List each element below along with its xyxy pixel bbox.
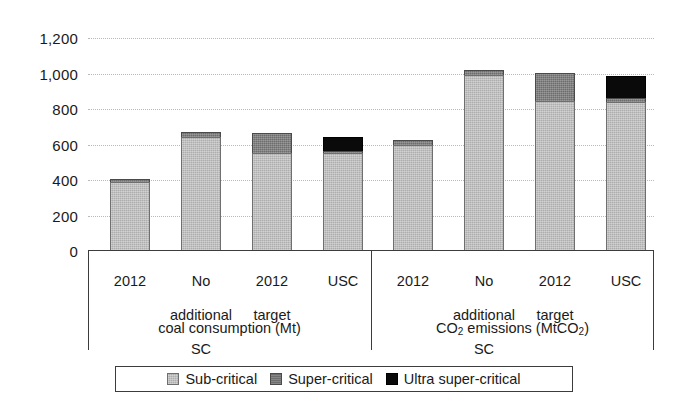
x-axis-category-labels: 2012 No additional SC 2012 target USC 20…	[88, 252, 654, 314]
group-label-co2-emissions: CO2 emissions (MtCO2)	[371, 320, 654, 337]
segment-sub-critical	[535, 101, 575, 251]
y-tick-1000: 1,000	[39, 65, 78, 82]
bar-coal-2012-target	[252, 133, 292, 251]
cat-line-3: SC	[191, 341, 211, 357]
cat-line-1: USC	[611, 273, 642, 289]
group-label-co2-text-3: )	[584, 320, 589, 336]
cat-co2-usc: USC	[583, 256, 669, 290]
segment-sub-critical	[606, 102, 646, 251]
segment-ultra-super-critical	[323, 137, 363, 151]
cat-line-1: No	[192, 273, 211, 289]
segment-sub-critical	[323, 153, 363, 251]
legend-label-ultra-super-critical: Ultra super-critical	[404, 371, 521, 387]
segment-sub-critical	[181, 137, 221, 251]
segment-ultra-super-critical	[606, 76, 646, 98]
legend-item-sub-critical[interactable]: Sub-critical	[167, 371, 257, 387]
bar-co2-2012	[393, 140, 433, 251]
segment-sub-critical	[110, 182, 150, 251]
y-tick-200: 200	[52, 207, 78, 224]
y-axis-labels: 1,200 1,000 800 600 400 200 0	[0, 38, 78, 251]
segment-super-critical	[535, 73, 575, 101]
chart-figure: 1,200 1,000 800 600 400 200 0	[0, 0, 685, 409]
group-label-coal-consumption: coal consumption (Mt)	[88, 320, 371, 336]
cat-line-1: 2012	[539, 273, 571, 289]
legend-item-super-critical[interactable]: Super-critical	[270, 371, 373, 387]
cat-line-1: USC	[328, 273, 359, 289]
group-label-co2-text-2: emissions (MtCO	[463, 320, 578, 336]
bar-coal-2012	[110, 179, 150, 251]
cat-line-1: No	[475, 273, 494, 289]
legend-item-ultra-super-critical[interactable]: Ultra super-critical	[386, 371, 521, 387]
plot-area	[88, 38, 654, 251]
legend-swatch-ultra-super-critical-icon	[386, 373, 398, 385]
y-tick-800: 800	[52, 101, 78, 118]
segment-sub-critical	[252, 153, 292, 251]
segment-sub-critical	[464, 75, 504, 251]
bar-series	[88, 38, 654, 251]
bar-coal-usc	[323, 137, 363, 251]
bar-coal-no-additional-sc	[181, 132, 221, 251]
bar-co2-no-additional-sc	[464, 70, 504, 251]
segment-super-critical	[252, 133, 292, 153]
group-label-co2-text-1: CO	[436, 320, 458, 336]
y-tick-400: 400	[52, 172, 78, 189]
y-tick-1200: 1,200	[39, 30, 78, 47]
bar-co2-usc	[606, 76, 646, 251]
legend-swatch-sub-critical-icon	[167, 373, 179, 385]
bar-co2-2012-target	[535, 73, 575, 251]
cat-line-1: 2012	[114, 273, 146, 289]
segment-sub-critical	[393, 145, 433, 252]
y-tick-600: 600	[52, 136, 78, 153]
cat-line-3: SC	[474, 341, 494, 357]
cat-line-1: 2012	[256, 273, 288, 289]
legend-label-sub-critical: Sub-critical	[185, 371, 257, 387]
legend-swatch-super-critical-icon	[270, 373, 282, 385]
legend-label-super-critical: Super-critical	[288, 371, 373, 387]
cat-line-1: 2012	[397, 273, 429, 289]
chart-legend: Sub-critical Super-critical Ultra super-…	[115, 366, 573, 392]
y-tick-0: 0	[69, 243, 78, 260]
